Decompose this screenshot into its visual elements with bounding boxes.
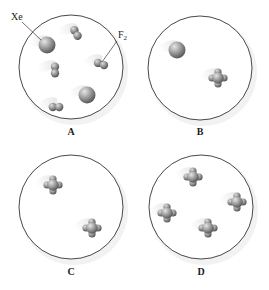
- container-circle: [19, 155, 123, 259]
- container-circle: [148, 16, 252, 120]
- panel-c: C: [19, 155, 128, 277]
- panel-label: D: [197, 266, 204, 277]
- panel-label: A: [67, 126, 75, 137]
- panel-d: D: [148, 155, 258, 277]
- panel-label: C: [67, 266, 74, 277]
- panel-a: A: [19, 15, 128, 137]
- panel-label: B: [197, 126, 204, 137]
- f2-label: F2: [118, 29, 128, 42]
- xe-label: Xe: [11, 11, 23, 22]
- reaction-diagram: ABCD XeF2: [0, 0, 269, 290]
- panel-b: B: [148, 16, 257, 137]
